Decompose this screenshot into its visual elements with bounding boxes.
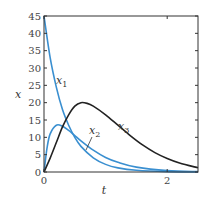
y-tick-label: 20 (28, 97, 41, 108)
series-label-x2: x2 (89, 124, 100, 139)
series-x3-line (44, 102, 198, 172)
y-tick-label: 35 (28, 45, 41, 56)
series-x1-line (44, 16, 198, 172)
y-tick-label: 10 (28, 132, 41, 143)
y-tick-label: 45 (28, 11, 41, 22)
y-axis-label: x (15, 88, 22, 101)
chart: 05101520253035404502txx1x2x3 (0, 0, 208, 200)
y-tick-label: 40 (28, 28, 41, 39)
x-axis-label: t (102, 184, 107, 197)
y-tick-label: 5 (35, 149, 41, 160)
y-tick-label: 25 (28, 80, 41, 91)
axes-frame (44, 16, 198, 172)
series-label-x1: x1 (56, 74, 67, 89)
y-tick-label: 15 (28, 115, 41, 126)
x-tick-label: 2 (164, 175, 170, 186)
series-label-x3: x3 (118, 120, 129, 135)
y-tick-label: 30 (28, 63, 41, 74)
x-tick-label: 0 (41, 175, 47, 186)
plot-area: 05101520253035404502txx1x2x3 (15, 11, 198, 198)
